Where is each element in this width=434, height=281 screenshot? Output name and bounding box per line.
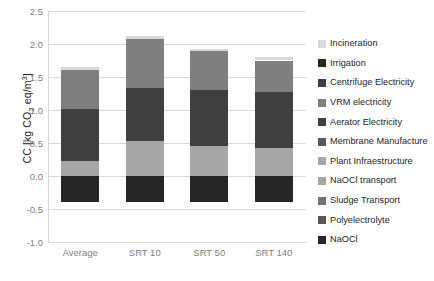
y-axis-tick-label: 2.5 <box>30 6 43 17</box>
legend-item[interactable]: Incineration <box>318 34 434 54</box>
x-axis-tick-label: SRT 140 <box>242 247 307 258</box>
bar-segment[interactable] <box>190 49 228 52</box>
bar-segment[interactable] <box>255 148 293 176</box>
bar-group[interactable]: SRT 50 <box>177 11 242 242</box>
legend-item-label: Centrifuge Electricity <box>330 78 414 87</box>
bar-segment[interactable] <box>126 88 164 141</box>
legend-swatch-icon <box>318 138 326 146</box>
y-axis-title-superscript: 3 <box>20 76 29 80</box>
bar-segment[interactable] <box>61 176 99 202</box>
bar-group[interactable]: Average <box>48 11 113 242</box>
legend-item-label: VRM electricity <box>330 98 391 107</box>
legend-item[interactable]: NaOCl <box>318 230 434 250</box>
bar-segment[interactable] <box>190 176 228 202</box>
y-axis-tick-label: 1.5 <box>30 72 43 83</box>
bar-group[interactable]: SRT 140 <box>242 11 307 242</box>
legend-item-label: NaOCl transport <box>330 176 396 185</box>
stacked-bar-chart: CC [kg CO2 eq/m3] 2.52.01.51.00.50.0-0.5… <box>0 0 434 281</box>
stacked-bar[interactable] <box>126 11 164 242</box>
y-axis-tick-label: 0.5 <box>30 138 43 149</box>
bar-segment[interactable] <box>255 57 293 60</box>
legend-item-label: Aerator Electricity <box>330 118 402 127</box>
legend-item[interactable]: VRM electricity <box>318 93 434 113</box>
bar-segment[interactable] <box>126 141 164 176</box>
legend-item-label: Irrigation <box>330 59 366 68</box>
legend-item-label: Sludge Transport <box>330 196 400 205</box>
bar-segment[interactable] <box>126 36 164 39</box>
bar-segment[interactable] <box>255 92 293 147</box>
legend-item-label: Membrane Manufacture <box>330 137 428 146</box>
x-axis-tick-label: SRT 10 <box>113 247 178 258</box>
legend-swatch-icon <box>318 118 326 126</box>
legend-swatch-icon <box>318 177 326 185</box>
bar-segment[interactable] <box>61 109 99 161</box>
bar-segment[interactable] <box>126 39 164 88</box>
legend-swatch-icon <box>318 236 326 244</box>
y-axis-tick-label: 1.0 <box>30 105 43 116</box>
bar-segment[interactable] <box>61 67 99 70</box>
gridline <box>48 242 306 243</box>
bar-segment[interactable] <box>255 176 293 202</box>
legend-item-label: Plant Infraestructure <box>330 157 413 166</box>
legend-item-label: Incineration <box>330 39 378 48</box>
bar-segment[interactable] <box>190 90 228 146</box>
y-axis-tick-label: -1.0 <box>27 237 43 248</box>
legend-swatch-icon <box>318 197 326 205</box>
legend-item-label: Polyelectrolyte <box>330 216 390 225</box>
y-axis-tick-label: 0.0 <box>30 171 43 182</box>
legend-item-label: NaOCl <box>330 235 358 244</box>
x-axis-tick-label: SRT 50 <box>177 247 242 258</box>
legend-swatch-icon <box>318 99 326 107</box>
y-axis-tick-label: 2.0 <box>30 39 43 50</box>
bar-segment[interactable] <box>190 51 228 89</box>
plot-area: 2.52.01.51.00.50.0-0.5-1.0AverageSRT 10S… <box>48 11 306 242</box>
legend-swatch-icon <box>318 79 326 87</box>
stacked-bar[interactable] <box>255 11 293 242</box>
x-axis-tick-label: Average <box>48 247 113 258</box>
bar-group[interactable]: SRT 10 <box>113 11 178 242</box>
legend-item[interactable]: Centrifuge Electricity <box>318 73 434 93</box>
stacked-bar[interactable] <box>61 11 99 242</box>
legend-swatch-icon <box>318 40 326 48</box>
legend-item[interactable]: Irrigation <box>318 54 434 74</box>
legend-item[interactable]: Membrane Manufacture <box>318 132 434 152</box>
legend-item[interactable]: Aerator Electricity <box>318 112 434 132</box>
bar-segment[interactable] <box>126 176 164 202</box>
legend-swatch-icon <box>318 59 326 67</box>
bar-segment[interactable] <box>61 161 99 176</box>
legend-swatch-icon <box>318 216 326 224</box>
y-axis-tick-label: -0.5 <box>27 204 43 215</box>
bar-segment[interactable] <box>61 70 99 110</box>
legend-item[interactable]: NaOCl transport <box>318 171 434 191</box>
legend-item[interactable]: Polyelectrolyte <box>318 210 434 230</box>
stacked-bar[interactable] <box>190 11 228 242</box>
bar-segment[interactable] <box>190 146 228 176</box>
y-axis-title-mid: eq/m <box>21 80 33 107</box>
chart-legend: IncinerationIrrigationCentrifuge Electri… <box>318 34 434 250</box>
bar-segment[interactable] <box>255 61 293 93</box>
legend-item[interactable]: Sludge Transport <box>318 191 434 211</box>
legend-swatch-icon <box>318 157 326 165</box>
legend-item[interactable]: Plant Infraestructure <box>318 152 434 172</box>
